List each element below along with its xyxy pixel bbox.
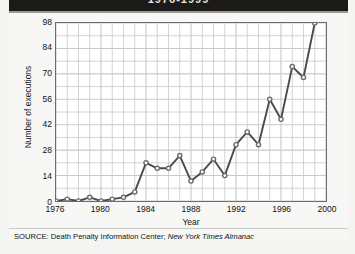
source-publication: New York Times Almanac xyxy=(168,232,254,241)
y-tick-label: 42 xyxy=(12,120,52,129)
x-tick-label: 2000 xyxy=(307,204,347,215)
banner-title: 1976-1999 xyxy=(9,0,348,5)
y-tick-label: 84 xyxy=(12,43,52,52)
source-divider xyxy=(9,228,348,229)
y-tick-label: 98 xyxy=(12,18,52,27)
x-tick-label: 1996 xyxy=(262,204,302,215)
chart-card: 1976-1999 Number of executions 014284256… xyxy=(0,0,355,254)
x-axis-title: Year xyxy=(55,217,327,227)
y-axis-ticks: 014284256708498 xyxy=(9,22,52,202)
y-tick-label: 56 xyxy=(12,95,52,104)
x-tick-label: 1980 xyxy=(80,204,120,215)
y-tick-label: 28 xyxy=(12,146,52,155)
x-axis-ticks: 1976198019841988199219962000 xyxy=(55,204,327,218)
chart-plate: Number of executions 014284256708498 197… xyxy=(9,14,348,240)
y-tick-label: 70 xyxy=(12,69,52,78)
x-tick-label: 1984 xyxy=(126,204,166,215)
source-note: SOURCE: Death Penalty Information Center… xyxy=(14,232,254,241)
source-prefix: SOURCE: Death Penalty Information Center… xyxy=(14,232,166,241)
x-tick-label: 1988 xyxy=(171,204,211,215)
banner: 1976-1999 xyxy=(9,0,348,11)
y-tick-label: 14 xyxy=(12,172,52,181)
line-chart-svg xyxy=(56,23,326,201)
plot-area xyxy=(55,22,327,202)
figure: 1976-1999 Number of executions 014284256… xyxy=(0,0,355,254)
x-tick-label: 1992 xyxy=(216,204,256,215)
x-tick-label: 1976 xyxy=(35,204,75,215)
banner-divider xyxy=(9,11,348,13)
